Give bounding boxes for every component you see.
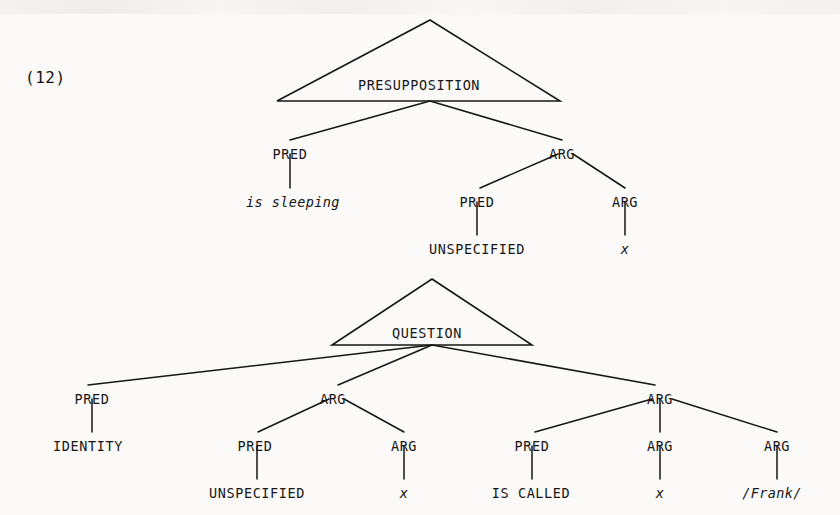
question-tree-node-arg-6: ARG — [647, 440, 673, 454]
presupposition-tree-node-arg-2: ARG — [612, 196, 638, 210]
presupposition-tree-node-pred-2: PRED — [460, 196, 495, 210]
question-tree-root-label: QUESTION — [392, 327, 462, 341]
presupposition-tree-node-is-sleeping: is sleeping — [246, 196, 340, 210]
question-tree-node-variable-x-3: x — [656, 487, 665, 501]
presupposition-tree-node-pred-1: PRED — [273, 148, 308, 162]
question-tree-node-arg-5: ARG — [391, 440, 417, 454]
question-tree-node-is-called: IS CALLED — [492, 487, 571, 501]
question-tree-edge-arg-4-to-arg-7 — [672, 399, 777, 432]
presupposition-tree-node-arg-1: ARG — [549, 148, 575, 162]
question-tree-node-unspecified-2: UNSPECIFIED — [209, 487, 305, 501]
presupposition-tree-node-variable-x-1: x — [621, 243, 630, 257]
question-tree-node-arg-4: ARG — [647, 393, 673, 407]
presupposition-tree-node-unspecified-1: UNSPECIFIED — [429, 243, 525, 257]
question-tree-edge-arg-3-to-pred-4 — [258, 399, 329, 432]
presupposition-tree-edge-arg-1-to-pred-2 — [480, 154, 558, 188]
diagram-page: (12) PRESUPPOSITIONPREDARGis sleepingPRE… — [0, 0, 840, 515]
question-tree-edge-triangle-base-center-to-pred-3 — [88, 345, 432, 385]
question-tree-edge-arg-4-to-pred-5 — [535, 399, 652, 432]
question-tree-node-pred-3: PRED — [75, 393, 110, 407]
question-tree-node-identity: IDENTITY — [53, 440, 123, 454]
question-tree-edge-arg-3-to-arg-5 — [344, 399, 404, 432]
question-tree-node-frank: /Frank/ — [742, 487, 802, 501]
question-tree-node-pred-4: PRED — [238, 440, 273, 454]
question-tree-node-arg-7: ARG — [764, 440, 790, 454]
presupposition-tree-edge-triangle-base-center-to-arg-1 — [430, 101, 562, 140]
presupposition-tree-edge-arg-1-to-arg-2 — [573, 154, 625, 188]
question-tree-node-variable-x-2: x — [400, 487, 409, 501]
question-tree-node-pred-5: PRED — [515, 440, 550, 454]
question-tree-edge-triangle-base-center-to-arg-4 — [432, 345, 655, 385]
presupposition-tree-edge-triangle-base-center-to-pred-1 — [290, 101, 430, 140]
presupposition-tree-root-label: PRESUPPOSITION — [358, 79, 480, 93]
question-tree-node-arg-3: ARG — [320, 393, 346, 407]
